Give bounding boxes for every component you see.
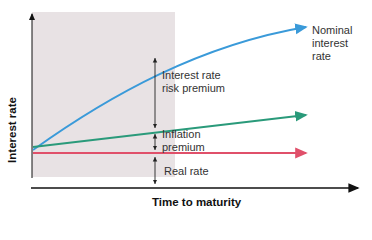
irrp-label: Interest rate risk premium (162, 69, 225, 95)
nominal-label: Nominal interest rate (312, 24, 352, 63)
inflation-label-line1: Inflation (162, 128, 205, 141)
irrp-label-line1: Interest rate (162, 69, 225, 82)
nominal-label-line1: Nominal (312, 24, 352, 37)
x-axis-label: Time to maturity (152, 196, 241, 208)
nominal-label-line3: rate (312, 50, 352, 63)
y-axis-label: Interest rate (4, 70, 20, 190)
real-rate-label: Real rate (164, 165, 209, 178)
nominal-label-line2: interest (312, 37, 352, 50)
irrp-label-line2: risk premium (162, 82, 225, 95)
inflation-label-line2: premium (162, 141, 205, 154)
inflation-label: Inflation premium (162, 128, 205, 154)
y-axis-label-text: Interest rate (6, 97, 18, 163)
